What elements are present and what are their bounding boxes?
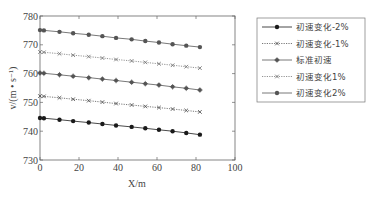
y-tick-label: 770 [23,39,38,50]
x-tick-label: 0 [38,162,43,173]
series-line [38,94,202,113]
y-tick-label: 730 [23,155,38,166]
x-tick-label: 40 [113,162,123,173]
series-line [38,50,202,70]
x-tick-label: 60 [152,162,162,173]
x-tick-label: 100 [228,162,243,173]
legend-label: 初速变化1% [296,72,346,82]
legend-label: 初速变化2% [296,88,346,98]
legend-label: 初速变化-2% [296,22,349,32]
series-group [37,28,203,137]
y-tick-label: 760 [23,68,38,79]
series-line [38,116,202,137]
legend-label: 初速变化-1% [296,39,349,49]
x-axis-label: X/m [128,178,146,189]
y-tick-label: 780 [23,11,38,22]
x-tick-label: 80 [191,162,201,173]
plot-frame [40,16,235,160]
series-line [37,70,203,93]
x-tick-label: 20 [74,162,84,173]
legend-label: 标准初速 [296,55,332,65]
y-tick-label: 740 [23,126,38,137]
legend: 初速变化-2%初速变化-1%标准初速初速变化1%初速变化2% [257,18,365,102]
y-axis-label: v/(m • s⁻¹) [7,67,19,110]
plot-axes: 020406080100730740750760770780 [23,11,243,174]
y-tick-label: 750 [23,97,38,108]
line-chart: 020406080100730740750760770780 初速变化-2%初速… [0,0,375,197]
series-line [38,28,202,49]
